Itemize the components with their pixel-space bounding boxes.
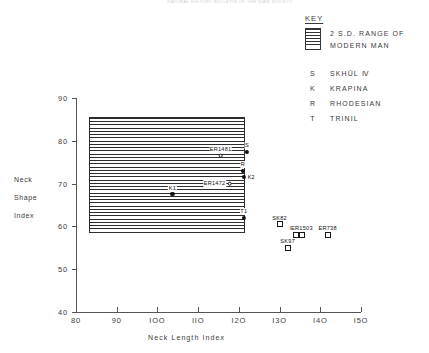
data-point-t1[interactable] — [242, 216, 246, 220]
y-tick-80 — [72, 141, 77, 142]
y-axis-title-line1: Neck — [14, 176, 32, 183]
y-tick-label-70: 70 — [44, 180, 68, 189]
x-tick-label-110: IIO — [186, 316, 210, 325]
x-tick-label-80: 80 — [64, 316, 88, 325]
y-tick-label-60: 60 — [44, 222, 68, 231]
x-tick-label-130: I3O — [268, 316, 292, 325]
scatter-plot: 405060708090 8090IOOIIOI2OI3OI4OI5O ER14… — [0, 0, 429, 353]
data-point-s[interactable] — [245, 149, 249, 153]
data-point-label-s: S — [245, 142, 250, 149]
data-point-er1481[interactable] — [218, 153, 223, 158]
x-tick-label-100: IOO — [145, 316, 169, 325]
data-point-label-sk97: SK97 — [280, 238, 296, 245]
y-tick-70 — [72, 184, 77, 185]
x-tick-110 — [198, 307, 199, 312]
data-point-label-sk82: SK82 — [272, 215, 288, 222]
data-point-label-k1: K1 — [168, 185, 176, 192]
y-axis-line — [76, 98, 77, 313]
x-tick-120 — [239, 307, 240, 312]
y-tick-label-90: 90 — [44, 94, 68, 103]
figure-container: NATURAL HISTORY BULLETIN OF THE SIAM SOC… — [0, 0, 429, 353]
x-tick-label-120: I2O — [227, 316, 251, 325]
data-point-label-er1472: ER1472 — [203, 180, 226, 187]
data-point-label-er738: ER738 — [318, 225, 337, 232]
x-tick-150 — [361, 307, 362, 312]
y-tick-label-50: 50 — [44, 265, 68, 274]
x-tick-80 — [76, 307, 77, 312]
x-tick-90 — [117, 307, 118, 312]
x-tick-140 — [320, 307, 321, 312]
data-point-label-r: R — [240, 161, 245, 168]
modern-man-range-band — [89, 117, 245, 233]
x-axis-title: Neck Length Index — [148, 334, 225, 341]
x-tick-100 — [157, 307, 158, 312]
data-point-label-t1: T1 — [240, 208, 248, 215]
data-point-k2[interactable] — [242, 175, 246, 179]
y-tick-50 — [72, 269, 77, 270]
data-point-er1472[interactable] — [228, 181, 233, 186]
data-point-er1503[interactable] — [299, 232, 305, 238]
y-tick-label-80: 80 — [44, 137, 68, 146]
x-tick-label-150: I5O — [349, 316, 373, 325]
x-tick-130 — [280, 307, 281, 312]
x-axis-line — [76, 312, 361, 313]
data-point-h2o[interactable] — [293, 232, 299, 238]
y-tick-40 — [72, 312, 77, 313]
data-point-er738[interactable] — [325, 232, 331, 238]
y-tick-90 — [72, 98, 77, 99]
data-point-label-k2: K2 — [247, 174, 255, 181]
y-axis-title-line3: Index — [14, 212, 34, 219]
x-tick-label-140: I4O — [308, 316, 332, 325]
data-point-label-er1503: ER1503 — [291, 225, 314, 232]
y-axis-title-line2: Shape — [14, 194, 37, 201]
data-point-label-er1481: ER1481 — [209, 146, 232, 153]
y-tick-60 — [72, 226, 77, 227]
x-tick-label-90: 90 — [105, 316, 129, 325]
data-point-sk82[interactable] — [277, 221, 283, 227]
data-point-sk97[interactable] — [285, 245, 291, 251]
